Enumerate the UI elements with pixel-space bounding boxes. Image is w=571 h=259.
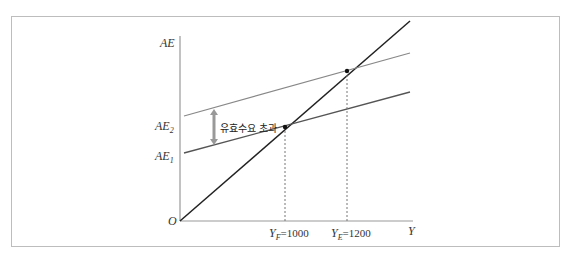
excess-demand-arrow bbox=[210, 109, 218, 145]
origin-label: O bbox=[168, 214, 177, 229]
diagram-canvas bbox=[0, 0, 571, 259]
point-ye bbox=[345, 69, 349, 73]
point-yf bbox=[283, 125, 287, 129]
ae1-label: AE1 bbox=[155, 149, 174, 165]
y-axis-label: AE bbox=[160, 36, 175, 51]
curve-ae1 bbox=[184, 92, 410, 153]
ae2-label: AE2 bbox=[155, 119, 174, 135]
yf-tick-label: YF=1000 bbox=[269, 226, 309, 242]
curve-ae2 bbox=[184, 53, 410, 116]
ye-tick-label: YE=1200 bbox=[331, 226, 371, 242]
excess-demand-label: 유효수요 초과 bbox=[220, 120, 277, 135]
x-axis-label: Y bbox=[408, 224, 415, 239]
